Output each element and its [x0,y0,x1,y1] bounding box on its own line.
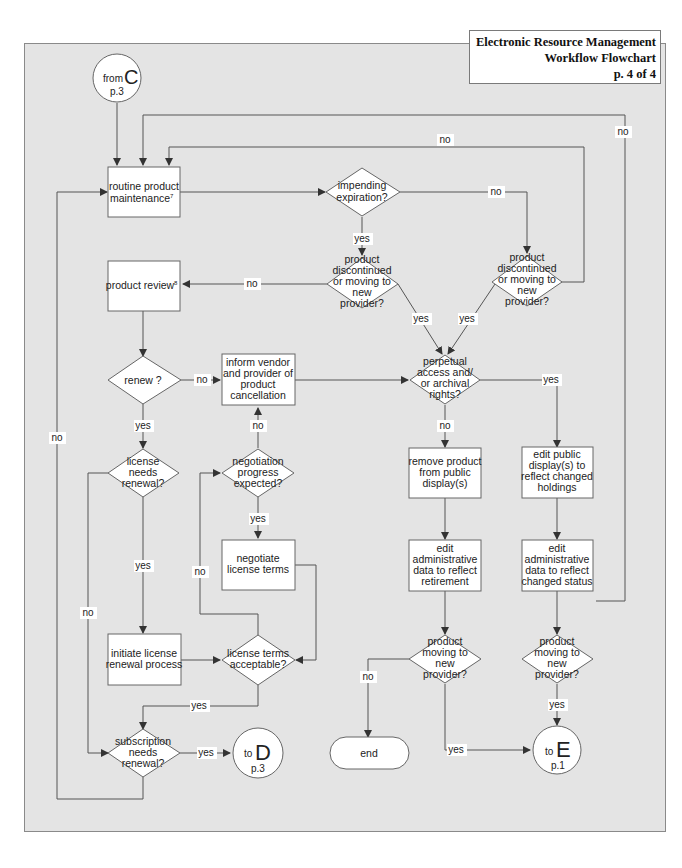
node-initiate-line-2: renewal process [106,658,182,670]
node-moving-left-line-4: provider? [423,668,467,680]
label-expiration-yes: yes [353,233,373,245]
node-perpetual-line-4: rights? [429,388,461,400]
label-text: no [194,566,206,577]
label-renew-yes: yes [134,420,154,432]
label-license-renewal-no: no [80,607,97,619]
node-product-review: product review 8 [106,261,180,311]
label-text: no [439,420,451,431]
node-license-terms-acceptable: license terms acceptable? [222,635,295,685]
label-disc-right-yes: yes [458,313,478,325]
node-inform-line-4: cancellation [230,389,286,401]
node-disc-right-line-5: provider? [505,295,549,307]
node-perpetual-access: perpetual access and/ or archival rights… [410,355,480,404]
edge-perpetual-yes [480,380,557,447]
node-remove-product: remove product from public display(s) [409,448,482,498]
node-moving-right-line-4: provider? [535,668,579,680]
label-text: no [617,126,629,137]
label-text: yes [191,700,207,711]
label-moving-left-no: no [360,671,377,683]
node-routine-maintenance: routine product maintenance 7 [108,167,180,217]
label-disc-left-no: no [244,278,261,290]
edge-moving-left-no [368,659,409,737]
label-license-renewal-yes: yes [134,560,154,572]
node-negotiation-line-3: expected? [234,477,283,489]
label-perpetual-yes: yes [542,374,562,386]
node-moving-left: product moving to new provider? [409,635,481,683]
node-routine-line-1: routine product [109,180,179,192]
label-negotiation-no: no [250,420,267,432]
node-end-label: end [360,747,378,759]
label-top-loop-no: no [615,126,632,138]
connector-from-c-page: p.3 [110,86,124,97]
label-right-loop-no: no [437,134,454,146]
label-text: no [82,607,94,618]
node-admin-retire-line-4: retirement [421,575,468,587]
node-end: end [330,737,409,769]
connector-from-c-letter: C [124,66,138,88]
label-terms-yes: yes [190,700,210,712]
label-text: no [439,134,451,145]
node-initiate-renewal: initiate license renewal process [106,634,182,685]
label-subscription-yes: yes [197,747,217,759]
node-renew: renew ? [108,356,181,404]
edge-moving-left-yes [445,684,530,750]
connector-to-d-page: p.3 [251,763,265,774]
label-text: yes [448,744,464,755]
label-text: no [490,186,502,197]
connector-from-c-prefix: from [103,73,123,84]
label-moving-left-yes: yes [447,744,467,756]
node-terms-line-2: acceptable? [230,658,287,670]
label-text: no [362,671,374,682]
label-text: yes [354,233,370,244]
label-subscription-no: no [49,432,66,444]
node-expiration-line-1: impending [338,179,387,191]
node-discontinued-right: product discontinued or moving to new pr… [492,251,562,307]
node-renew-line-1: renew ? [124,374,162,386]
label-text: yes [198,747,214,758]
label-text: no [252,420,264,431]
label-text: yes [250,513,266,524]
node-edit-public-display: edit public display(s) to reflect change… [521,447,593,498]
node-expiration-line-2: expiration? [336,191,388,203]
label-expiration-no: no [488,186,505,198]
label-moving-right-yes: yes [548,699,568,711]
node-inform-vendor: inform vendor and provider of product ca… [222,354,295,405]
connector-to-d-letter: D [255,740,271,765]
label-text: yes [549,699,565,710]
connector-to-e: to E p.1 [533,726,581,774]
flowchart-canvas: from C p.3 routine product maintenance 7… [0,0,682,868]
connector-to-e-prefix: to [545,746,554,757]
node-negotiate-terms: negotiate license terms [222,540,295,590]
label-text: no [51,432,63,443]
node-subscription-line-3: renewal? [122,757,165,769]
node-remove-line-3: display(s) [423,477,468,489]
node-license-renewal-line-3: renewal? [122,477,165,489]
node-negotiation-progress: negotiation progress expected? [222,449,294,497]
node-impending-expiration: impending expiration? [326,168,400,216]
node-edit-admin-status: edit administrative data to reflect chan… [521,540,593,591]
label-text: yes [543,374,559,385]
label-terms-no: no [192,566,209,578]
node-disc-left-line-5: provider? [340,297,384,309]
edge-negotiate-terms [295,565,316,660]
connector-to-e-letter: E [556,737,571,762]
node-admin-status-line-4: changed status [521,575,592,587]
node-moving-right: product moving to new provider? [522,635,593,683]
label-renew-no: no [194,374,211,386]
node-review-line-1: product review [106,279,175,291]
label-text: no [196,374,208,385]
edge-expiration-no [400,192,527,253]
label-negotiation-yes: yes [249,513,269,525]
node-edit-admin-retirement: edit administrative data to reflect reti… [409,540,481,591]
label-text: no [246,278,258,289]
connector-to-d-prefix: to [244,748,253,759]
node-subscription-renewal: subscription needs renewal? [108,729,180,777]
label-text: yes [135,420,151,431]
node-routine-line-2: maintenance [110,192,170,204]
node-discontinued-left: product discontinued or moving to new pr… [327,253,398,309]
node-license-needs-renewal: license needs renewal? [108,449,179,497]
label-disc-left-yes: yes [412,313,432,325]
node-edit-public-line-4: holdings [537,481,576,493]
connector-to-d: to D p.3 [233,728,283,778]
label-text: yes [413,313,429,324]
